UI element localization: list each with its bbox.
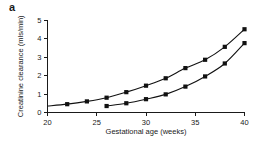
data-point-marker [164, 92, 168, 96]
y-axis-tick-labels: 012345 [37, 16, 41, 118]
chart-figure: a 012345 2025303540 Gestational age (wee… [0, 0, 263, 146]
x-axis-ticks [48, 113, 245, 117]
x-tick-label: 30 [142, 118, 150, 127]
data-point-marker [223, 61, 227, 65]
data-point-marker [124, 90, 128, 94]
series-line [107, 43, 245, 106]
data-point-marker [105, 104, 109, 108]
y-tick-label: 1 [37, 90, 41, 99]
y-tick-label: 5 [37, 16, 41, 25]
x-tick-label: 25 [93, 118, 101, 127]
data-point-marker [223, 45, 227, 49]
data-point-marker [144, 97, 148, 101]
data-point-marker [242, 41, 246, 45]
data-point-marker [183, 85, 187, 89]
x-tick-label: 20 [43, 118, 51, 127]
y-tick-label: 2 [37, 71, 41, 80]
data-point-marker [105, 96, 109, 100]
data-point-marker [203, 74, 207, 78]
series-line [48, 29, 245, 106]
data-point-marker [144, 84, 148, 88]
data-point-marker [65, 102, 69, 106]
y-axis-ticks [44, 20, 48, 113]
y-tick-label: 3 [37, 53, 41, 62]
data-point-marker [203, 58, 207, 62]
data-series-group [48, 27, 247, 108]
creatinine-clearance-plot: 012345 2025303540 Gestational age (weeks… [0, 0, 263, 146]
data-point-marker [85, 99, 89, 103]
y-tick-label: 4 [37, 34, 41, 43]
x-tick-label: 40 [240, 118, 248, 127]
data-point-marker [164, 76, 168, 80]
y-tick-label: 0 [37, 108, 41, 117]
x-axis-title: Gestational age (weeks) [106, 127, 187, 136]
x-tick-label: 35 [191, 118, 199, 127]
y-axis-title: Creatinine clearance (mls/min) [16, 15, 25, 117]
data-point-marker [242, 27, 246, 31]
x-axis-tick-labels: 2025303540 [43, 118, 248, 127]
data-point-marker [183, 66, 187, 70]
data-point-marker [124, 101, 128, 105]
